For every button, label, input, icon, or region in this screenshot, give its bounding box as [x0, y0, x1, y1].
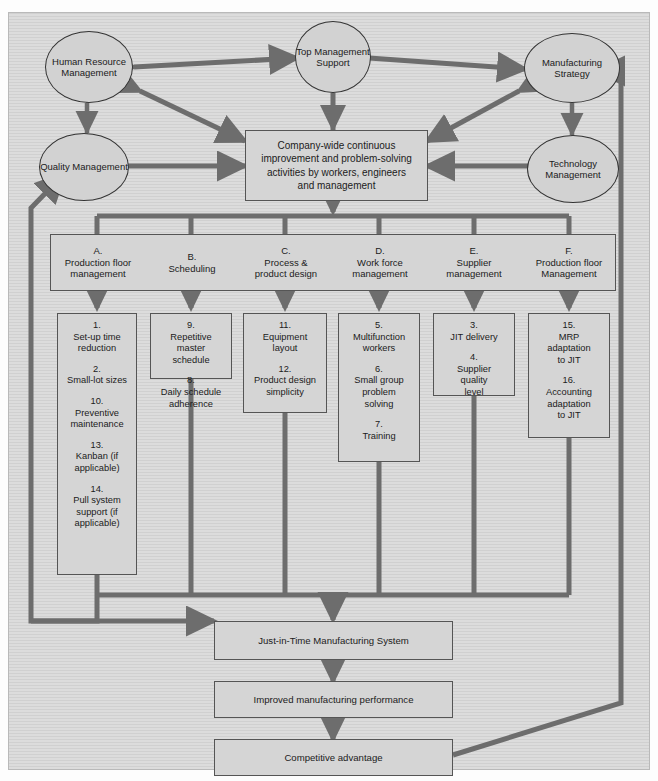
practice-text: Equipmentlayout	[263, 332, 307, 355]
practice-text: Pull systemsupport (ifapplicable)	[73, 495, 121, 530]
top-management-support-node[interactable]: Top Management Support	[295, 21, 371, 93]
practice-number: 11.	[263, 320, 307, 332]
practice-number: 3.	[450, 320, 497, 332]
practice-entry: 4.Supplierqualitylevel	[457, 352, 491, 398]
improved-manufacturing-performance-box[interactable]: Improved manufacturing performance	[214, 681, 453, 718]
manufacturing-strategy-node[interactable]: Manufacturing Strategy	[524, 33, 620, 103]
link-hrm-tms	[134, 58, 297, 67]
quality-management-label: Quality Management	[40, 161, 128, 173]
figure-page: Human Resource Management Top Management…	[0, 0, 658, 781]
practice-box-c[interactable]: 11.Equipmentlayout12.Product designsimpl…	[243, 313, 327, 413]
column-a-letter: A.	[94, 245, 103, 257]
practice-entry: 15.MRPadaptationto JIT	[547, 320, 590, 366]
jit-manufacturing-system-label: Just-in-Time Manufacturing System	[258, 635, 409, 646]
practice-text: Kanban (ifapplicable)	[75, 451, 120, 474]
competitive-advantage-label: Competitive advantage	[284, 752, 382, 763]
practice-number: 15.	[547, 320, 590, 332]
jit-manufacturing-system-box[interactable]: Just-in-Time Manufacturing System	[214, 621, 453, 660]
diagram-canvas: Human Resource Management Top Management…	[8, 12, 650, 770]
practice-entry: 5.Multifunctionworkers	[353, 320, 405, 355]
practice-entry: 3.JIT delivery	[450, 320, 497, 343]
practice-number: 8.	[161, 375, 221, 387]
practice-text: MRPadaptationto JIT	[547, 332, 590, 367]
human-resource-management-node[interactable]: Human Resource Management	[45, 31, 133, 103]
column-c-letter: C.	[281, 245, 291, 257]
column-a-title: Production floormanagement	[65, 257, 132, 281]
top-management-support-label: Top Management Support	[296, 46, 370, 69]
practice-entry: 16.Accountingadaptationto JIT	[546, 375, 592, 421]
practice-entry: 11.Equipmentlayout	[263, 320, 307, 355]
column-header-a[interactable]: A. Production floormanagement	[51, 235, 145, 290]
link-ms-center	[427, 91, 519, 141]
column-e-title: Suppliermanagement	[446, 257, 501, 281]
practice-box-f[interactable]: 15.MRPadaptationto JIT16.Accountingadapt…	[528, 313, 610, 438]
practice-text: Small groupproblemsolving	[354, 375, 404, 410]
practice-text: Training	[362, 431, 395, 443]
technology-management-label: Technology Management	[528, 158, 618, 181]
practice-number: 10.	[70, 396, 123, 408]
column-b-title: Scheduling	[168, 263, 215, 275]
practice-text: Multifunctionworkers	[353, 332, 405, 355]
practice-box-e[interactable]: 3.JIT delivery4.Supplierqualitylevel	[433, 313, 515, 396]
column-b-letter: B.	[188, 251, 197, 263]
practice-number: 4.	[457, 352, 491, 364]
column-header-d[interactable]: D. Work forcemanagement	[333, 235, 427, 290]
practice-entry: 13.Kanban (ifapplicable)	[75, 440, 120, 475]
column-header-f[interactable]: F. Production floorManagement	[521, 235, 617, 290]
practice-number: 9.	[170, 320, 211, 332]
practice-entry: 14.Pull systemsupport (ifapplicable)	[73, 484, 121, 530]
technology-management-node[interactable]: Technology Management	[527, 135, 619, 203]
practice-entry: 6.Small groupproblemsolving	[354, 364, 404, 410]
practice-entry: 10.Preventivemaintenance	[70, 396, 123, 431]
practice-text: Set-up timereduction	[73, 332, 121, 355]
practice-number: 14.	[73, 484, 121, 496]
practice-text: Small-lot sizes	[67, 375, 127, 387]
practice-number: 13.	[75, 440, 120, 452]
practice-box-b[interactable]: 9.Repetitivemasterschedule8.Daily schedu…	[150, 313, 232, 379]
column-d-letter: D.	[375, 245, 385, 257]
practice-text: Supplierqualitylevel	[457, 364, 491, 399]
practice-number: 6.	[354, 364, 404, 376]
practice-entry: 7.Training	[362, 419, 395, 442]
practice-text: Product designsimplicity	[254, 375, 316, 398]
column-header-c[interactable]: C. Process &product design	[239, 235, 333, 290]
column-f-letter: F.	[565, 245, 572, 257]
practice-number: 7.	[362, 419, 395, 431]
practice-number: 16.	[546, 375, 592, 387]
practice-box-a[interactable]: 1.Set-up timereduction2.Small-lot sizes1…	[57, 313, 137, 575]
practice-entry: 1.Set-up timereduction	[73, 320, 121, 355]
practice-entry: 2.Small-lot sizes	[67, 364, 127, 387]
practice-number: 5.	[353, 320, 405, 332]
human-resource-management-label: Human Resource Management	[46, 56, 132, 79]
column-header-bar: A. Production floormanagement B. Schedul…	[50, 234, 616, 291]
practice-box-d[interactable]: 5.Multifunctionworkers6.Small groupprobl…	[338, 313, 420, 462]
practice-entry: 8.Daily scheduleadherence	[161, 375, 221, 410]
practice-text: Daily scheduleadherence	[161, 387, 221, 410]
practice-entry: 12.Product designsimplicity	[254, 364, 316, 399]
column-header-b[interactable]: B. Scheduling	[145, 235, 239, 290]
practice-number: 12.	[254, 364, 316, 376]
column-f-title: Production floorManagement	[536, 257, 603, 281]
column-d-title: Work forcemanagement	[352, 257, 407, 281]
practice-number: 1.	[73, 320, 121, 332]
practice-text: Preventivemaintenance	[70, 408, 123, 431]
central-activity-box[interactable]: Company-wide continuousimprovement and p…	[245, 130, 428, 201]
practice-entry: 9.Repetitivemasterschedule	[170, 320, 211, 366]
central-activity-label: Company-wide continuousimprovement and p…	[261, 139, 412, 193]
column-header-e[interactable]: E. Suppliermanagement	[427, 235, 521, 290]
column-e-letter: E.	[470, 245, 479, 257]
practice-text: Accountingadaptationto JIT	[546, 387, 592, 422]
improved-manufacturing-performance-label: Improved manufacturing performance	[254, 694, 414, 705]
practice-text: JIT delivery	[450, 332, 497, 344]
column-c-title: Process &product design	[255, 257, 317, 281]
link-tms-ms	[369, 58, 525, 69]
competitive-advantage-box[interactable]: Competitive advantage	[214, 739, 453, 776]
practice-number: 2.	[67, 364, 127, 376]
link-hrm-center	[140, 91, 245, 141]
manufacturing-strategy-label: Manufacturing Strategy	[525, 57, 619, 80]
quality-management-node[interactable]: Quality Management	[39, 133, 129, 201]
practice-text: Repetitivemasterschedule	[170, 332, 211, 367]
